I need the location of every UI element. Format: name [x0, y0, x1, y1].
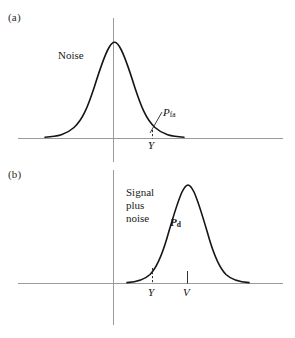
noise-curve-label: Noise	[58, 49, 84, 62]
pfa-subscript: fa	[170, 110, 176, 119]
panel-a-threshold-tick-label: Y	[148, 139, 154, 151]
false-alarm-probability-label: Pfa	[163, 106, 176, 119]
panel-label-b: (b)	[8, 168, 21, 180]
pd-subscript: d	[177, 220, 181, 229]
signal-plus-noise-curve-label: Signal plus noise	[126, 186, 154, 225]
detection-probability-label: Pd	[170, 216, 181, 229]
panel-b-threshold-tick-label: Y	[148, 286, 154, 298]
pd-symbol: P	[170, 216, 177, 228]
figure-container: (a) (b) Noise Signal plus noise Pfa Pd Y…	[0, 0, 295, 338]
panel-a-pfa-leader	[150, 112, 162, 133]
panel-b-mean-tick-label: V	[183, 286, 190, 298]
panel-label-a: (a)	[8, 11, 21, 23]
pfa-symbol: P	[163, 106, 170, 118]
